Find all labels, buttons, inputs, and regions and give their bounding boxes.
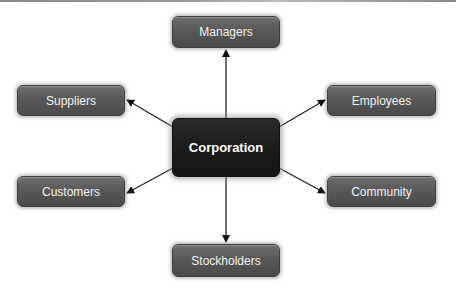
node-label: Community	[351, 185, 412, 199]
node-customers: Customers	[17, 176, 125, 207]
node-label: Suppliers	[46, 94, 96, 108]
node-label: Stockholders	[191, 254, 260, 268]
arrow-to-employees	[279, 100, 325, 127]
node-suppliers: Suppliers	[17, 85, 125, 116]
arrow-to-customers	[127, 168, 173, 193]
arrow-to-suppliers	[127, 100, 173, 127]
node-community: Community	[327, 176, 436, 207]
node-employees: Employees	[327, 85, 436, 116]
node-stockholders: Stockholders	[172, 244, 280, 277]
node-corporation: Corporation	[172, 118, 280, 177]
node-label: Employees	[352, 94, 411, 108]
node-label: Managers	[199, 25, 252, 39]
arrow-to-community	[279, 168, 325, 193]
center-label: Corporation	[189, 140, 263, 155]
node-managers: Managers	[172, 16, 280, 48]
node-label: Customers	[42, 185, 100, 199]
